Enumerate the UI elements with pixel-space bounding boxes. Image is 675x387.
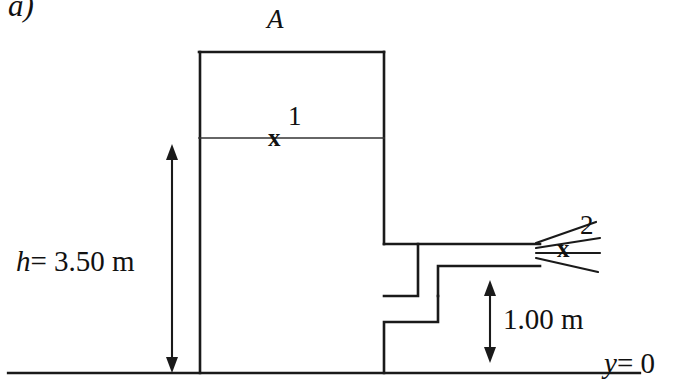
point-2-label: 2: [580, 212, 594, 239]
part-label: a): [8, 0, 34, 21]
spout-height-arrowhead-top: [484, 280, 496, 296]
tank-height-symbol: h: [16, 245, 31, 277]
tank-height-label: h= 3.50 m: [16, 247, 135, 276]
spout-height-arrowhead-bottom: [484, 347, 496, 363]
tank-height-arrowhead-bottom: [166, 357, 178, 373]
datum-value: = 0: [617, 347, 655, 379]
point-1-label: 1: [288, 103, 302, 130]
point-2-marker-x: x: [557, 236, 570, 261]
point-1-marker-x: x: [268, 125, 281, 150]
tank-height-value: = 3.50 m: [31, 245, 135, 277]
datum-symbol: y: [604, 347, 617, 379]
spout-height-label: 1.00 m: [503, 305, 584, 334]
tank-area-label: A: [267, 6, 284, 33]
lower-step-ledge: [384, 296, 438, 373]
datum-label: y= 0: [604, 349, 655, 378]
physics-figure: a) A 1 x 2 x h= 3.50 m 1.00 m y= 0: [0, 0, 675, 387]
tank-height-arrowhead-top: [166, 144, 178, 160]
upper-step-notch: [384, 244, 418, 296]
